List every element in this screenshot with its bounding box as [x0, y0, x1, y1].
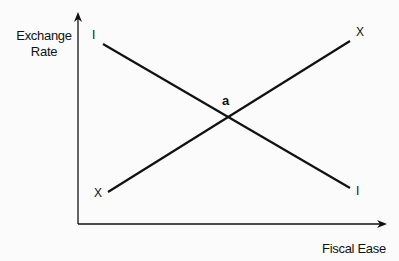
curve-x-start-label: X [94, 186, 102, 201]
y-axis-label-line2: Rate [4, 44, 84, 60]
intersection-label: a [222, 93, 229, 108]
curve-i-start-label: I [92, 28, 95, 43]
x-axis-label: Fiscal Ease [322, 241, 386, 256]
y-axis-label-line1: Exchange [4, 28, 84, 44]
curve-x [108, 41, 350, 192]
diagram-canvas: Exchange Rate Fiscal Ease I I X X a [0, 0, 399, 261]
curve-x-end-label: X [356, 25, 364, 40]
y-axis-label: Exchange Rate [4, 28, 84, 60]
curve-i-end-label: I [356, 184, 359, 199]
curve-i [103, 44, 350, 188]
